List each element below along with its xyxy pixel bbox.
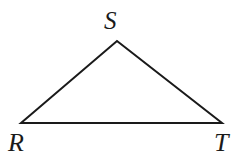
vertex-label-r: R (8, 130, 24, 156)
geometry-figure: S R T (0, 0, 245, 164)
triangle-shape (0, 0, 245, 164)
triangle-outline (21, 41, 222, 123)
vertex-label-t: T (214, 130, 228, 156)
vertex-label-s: S (104, 8, 117, 33)
